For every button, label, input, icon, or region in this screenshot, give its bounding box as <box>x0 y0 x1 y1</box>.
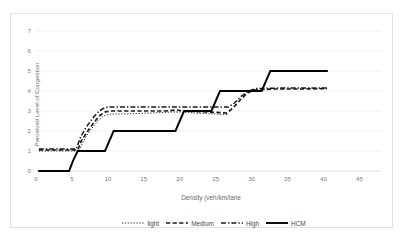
x-tick-label: 30 <box>243 175 261 182</box>
y-tick-label: 5 <box>17 67 31 74</box>
y-tick-label: 3 <box>17 107 31 114</box>
legend-label: HCM <box>291 220 306 227</box>
x-tick-label: 0 <box>27 175 45 182</box>
legend-item-high[interactable]: High <box>221 219 259 227</box>
y-tick-label: 6 <box>17 47 31 54</box>
legend-swatch-medium <box>166 219 188 227</box>
x-tick-label: 35 <box>279 175 297 182</box>
legend-item-light[interactable]: light <box>122 219 159 227</box>
x-tick-label: 15 <box>135 175 153 182</box>
chart-figure: Perceived Level of Congestion Density (v… <box>0 0 406 237</box>
y-tick-label: 0 <box>17 167 31 174</box>
legend-label: Medium <box>191 220 214 227</box>
x-tick-label: 10 <box>99 175 117 182</box>
x-tick-label: 5 <box>63 175 81 182</box>
x-axis-label: Density (veh/km/lane <box>111 194 311 201</box>
y-tick-label: 2 <box>17 127 31 134</box>
y-tick-label: 4 <box>17 87 31 94</box>
legend-swatch-high <box>221 219 243 227</box>
series-line-medium <box>39 89 327 150</box>
chart-legend: lightMediumHighHCM <box>11 214 406 232</box>
legend-label: High <box>246 220 259 227</box>
x-tick-label: 40 <box>315 175 333 182</box>
y-tick-label: 1 <box>17 147 31 154</box>
chart-frame: Perceived Level of Congestion Density (v… <box>10 13 393 228</box>
x-tick-label: 25 <box>207 175 225 182</box>
legend-swatch-hcm <box>266 219 288 227</box>
series-line-hcm <box>38 71 328 171</box>
x-tick-label: 45 <box>350 175 368 182</box>
legend-swatch-light <box>122 219 144 227</box>
legend-item-medium[interactable]: Medium <box>166 219 214 227</box>
x-tick-label: 20 <box>171 175 189 182</box>
y-axis-label: Perceived Level of Congestion <box>33 41 40 169</box>
legend-label: light <box>147 220 159 227</box>
y-tick-label: 7 <box>17 27 31 34</box>
legend-item-hcm[interactable]: HCM <box>266 219 306 227</box>
